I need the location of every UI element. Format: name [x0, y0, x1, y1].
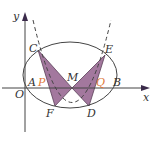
- point-label-p: P: [37, 76, 46, 89]
- conic-diagram: x y O A P M Q B C E F D: [0, 0, 155, 141]
- point-label-d: D: [86, 107, 96, 120]
- point-label-q: Q: [96, 76, 105, 89]
- y-axis-label: y: [12, 10, 20, 23]
- point-label-f: F: [45, 107, 54, 120]
- point-label-e: E: [104, 43, 113, 56]
- origin-label: O: [15, 88, 24, 101]
- x-axis-label: x: [143, 91, 150, 104]
- point-label-b: B: [112, 76, 121, 89]
- point-label-a: A: [27, 76, 36, 89]
- y-axis-arrow-icon: [22, 12, 28, 21]
- point-label-m: M: [66, 71, 79, 84]
- point-label-c: C: [29, 42, 38, 55]
